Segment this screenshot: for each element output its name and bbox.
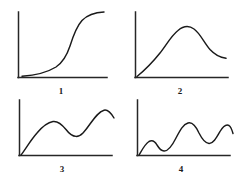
panel-2-curve <box>137 27 226 77</box>
four-curve-shapes-figure: 1 2 3 4 <box>0 0 239 179</box>
panel-2: 2 <box>135 12 228 96</box>
panel-2-label: 2 <box>178 86 183 96</box>
panel-4: 4 <box>137 100 233 174</box>
panel-1-curve <box>22 12 104 76</box>
figure-container: 1 2 3 4 <box>0 0 239 179</box>
panel-1: 1 <box>18 12 107 96</box>
panel-1-label: 1 <box>59 86 64 96</box>
panel-3-curve <box>21 110 114 155</box>
panel-3-label: 3 <box>60 164 65 174</box>
panel-3: 3 <box>19 100 114 174</box>
panel-4-label: 4 <box>179 164 184 174</box>
panel-4-curve <box>139 123 233 155</box>
